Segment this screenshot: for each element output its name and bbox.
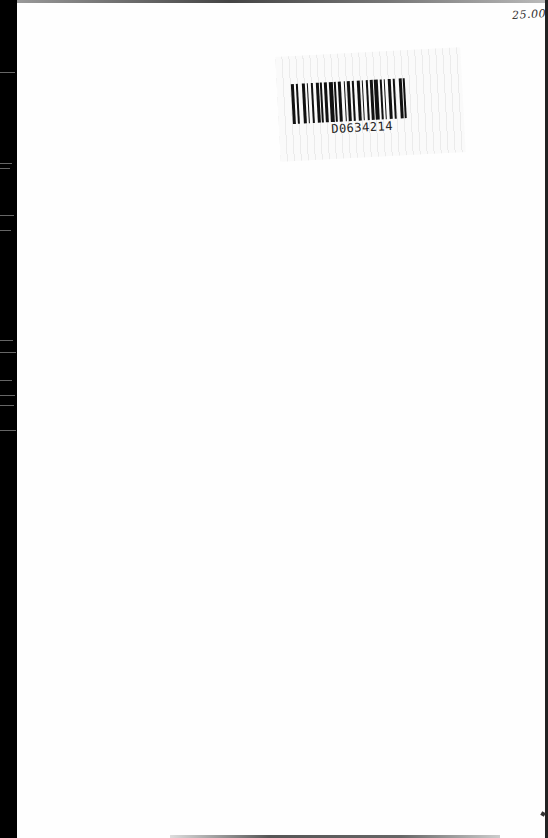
page-top-shadow	[17, 0, 548, 3]
handwritten-price: 25.00	[512, 7, 547, 22]
binding-edge	[0, 0, 17, 838]
barcode-icon	[291, 78, 409, 124]
barcode-sticker: D0634214	[275, 47, 465, 162]
